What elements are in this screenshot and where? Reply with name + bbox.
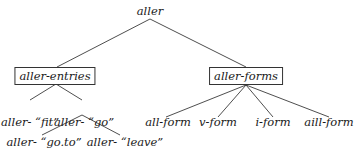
edge-forms-allform [166, 85, 246, 117]
aller-tree-diagram: aller aller-entries aller-forms aller- “… [0, 0, 354, 156]
node-v-form: v-form [199, 115, 237, 129]
node-aller-go-to: aller- “go.to” [6, 135, 81, 149]
node-aller-leave: aller- “leave” [87, 135, 163, 149]
node-aller-entries: aller-entries [14, 67, 95, 85]
node-root: aller [137, 4, 164, 18]
node-aill-form: aill-form [304, 115, 353, 129]
node-all-form: all-form [145, 115, 191, 129]
node-aller-fit: aller- “fit” [1, 115, 59, 129]
edge-forms-vform [218, 85, 246, 117]
edge-root-forms [150, 19, 246, 67]
edge-forms-aillform [246, 85, 329, 117]
edge-root-entries [57, 19, 150, 67]
edge-entries-go [56, 84, 82, 100]
node-i-form: i-form [255, 115, 290, 129]
node-aller-go: aller- “go” [54, 115, 114, 129]
node-aller-forms: aller-forms [209, 67, 283, 85]
edge-entries-fit [30, 84, 56, 100]
